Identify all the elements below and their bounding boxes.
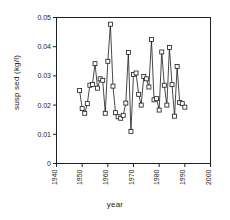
plot-area: 00.010.020.030.040.05 194019501960197019…: [0, 0, 230, 220]
series-line: [80, 24, 185, 131]
data-point-marker: [155, 97, 159, 101]
data-point-marker: [165, 103, 169, 107]
data-point-marker: [139, 103, 143, 107]
series-markers: [78, 22, 187, 133]
data-point-marker: [175, 65, 179, 69]
data-point-marker: [106, 59, 110, 63]
y-tick-label: 0.02: [37, 102, 51, 109]
y-tick-label: 0.01: [37, 131, 51, 138]
data-point-marker: [126, 51, 130, 55]
data-point-marker: [85, 102, 89, 106]
data-point-marker: [121, 113, 125, 117]
x-tick-label: 1970: [128, 169, 135, 185]
x-tick-label: 2000: [205, 169, 212, 185]
chart-figure: susp sed (kg/l) year 00.010.020.030.040.…: [0, 0, 230, 220]
x-tick-label: 1960: [102, 169, 109, 185]
data-point-marker: [162, 83, 166, 87]
data-point-marker: [147, 85, 151, 89]
y-tick-label: 0: [47, 160, 51, 167]
data-point-marker: [93, 62, 97, 66]
y-tick-label: 0.04: [37, 43, 51, 50]
data-point-marker: [157, 108, 161, 112]
x-tick-label: 1950: [76, 169, 83, 185]
y-tick-label: 0.03: [37, 72, 51, 79]
data-point-marker: [78, 89, 82, 93]
data-point-marker: [83, 111, 87, 115]
data-point-marker: [183, 105, 187, 109]
x-tick-label: 1990: [179, 169, 186, 185]
data-point-marker: [137, 92, 141, 96]
data-point-marker: [170, 83, 174, 87]
x-axis-title: year: [0, 200, 230, 209]
data-point-marker: [144, 77, 148, 81]
data-point-marker: [111, 84, 115, 88]
data-point-marker: [129, 129, 133, 133]
x-axis-ticks: 1940195019601970198019902000: [51, 164, 212, 186]
data-point-marker: [101, 78, 105, 82]
data-point-marker: [124, 101, 128, 105]
data-point-marker: [134, 71, 138, 75]
data-point-marker: [160, 50, 164, 54]
x-tick-label: 1980: [153, 169, 160, 185]
data-point-marker: [114, 111, 118, 115]
y-axis-title: susp sed (kg/l): [12, 35, 21, 131]
data-point-marker: [90, 82, 94, 86]
y-axis-ticks: 00.010.020.030.040.05: [37, 14, 56, 167]
y-tick-label: 0.05: [37, 14, 51, 21]
data-point-marker: [149, 37, 153, 41]
data-point-marker: [108, 22, 112, 26]
data-point-marker: [173, 114, 177, 118]
data-point-marker: [167, 46, 171, 50]
data-point-marker: [103, 111, 107, 115]
x-tick-label: 1940: [51, 169, 58, 185]
data-point-marker: [80, 107, 84, 111]
data-point-marker: [96, 86, 100, 90]
